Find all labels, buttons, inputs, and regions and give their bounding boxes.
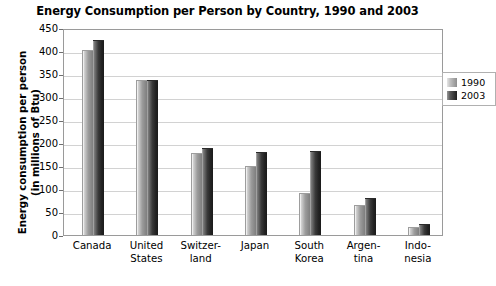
y-axis-tick-mark: [59, 236, 63, 237]
x-axis-tick-label: Switzer-land: [170, 240, 232, 265]
x-axis-tick-labels: CanadaUnitedStatesSwitzer-landJapanSouth…: [63, 240, 443, 280]
bar-group: [299, 30, 321, 235]
plot-area: 1990 2003: [63, 29, 443, 236]
x-axis-tick-label-line-2: land: [170, 253, 232, 266]
y-axis-tick-label: 200: [28, 139, 58, 149]
x-axis-tick-label-line-1: Canada: [61, 240, 123, 253]
y-axis-tick-label: 400: [28, 47, 58, 57]
bar-2003-switzerland: [202, 148, 213, 235]
y-axis-tick-label: 50: [28, 208, 58, 218]
bar-group: [245, 30, 267, 235]
bar-2003-canada: [93, 40, 104, 235]
legend-item: 2003: [447, 89, 492, 102]
x-axis-tick-label-line-2: Korea: [278, 253, 340, 266]
y-axis-tick-label: 450: [28, 24, 58, 34]
y-axis-tick-label: 100: [28, 185, 58, 195]
y-axis-tick-label: 150: [28, 162, 58, 172]
x-axis-tick-label: Argen-tina: [333, 240, 395, 265]
x-axis-tick-label: Japan: [224, 240, 286, 253]
bar-1990-united-states: [136, 80, 147, 235]
x-axis-tick-label: Indo-nesia: [387, 240, 449, 265]
legend-label-1990: 1990: [461, 78, 485, 88]
x-axis-tick-label: UnitedStates: [115, 240, 177, 265]
bar-1990-canada: [82, 50, 93, 235]
bar-group: [354, 30, 376, 235]
x-axis-tick-label-line-2: States: [115, 253, 177, 266]
x-axis-tick-label-line-1: Indo-: [387, 240, 449, 253]
legend-swatch-2003-icon: [447, 91, 457, 100]
bar-group: [82, 30, 104, 235]
x-axis-tick-label-line-1: Switzer-: [170, 240, 232, 253]
bars-layer: [64, 30, 442, 235]
y-axis-tick-label: 250: [28, 116, 58, 126]
x-axis-tick-label-line-1: Japan: [224, 240, 286, 253]
bar-2003-south-korea: [310, 151, 321, 235]
legend-swatch-1990-icon: [447, 78, 457, 87]
bar-group: [191, 30, 213, 235]
legend-label-2003: 2003: [461, 91, 485, 101]
x-axis-tick-label: Canada: [61, 240, 123, 253]
bar-2003-japan: [256, 152, 267, 235]
bar-group: [408, 30, 430, 235]
chart-legend: 1990 2003: [442, 72, 496, 106]
bar-2003-indonesia: [419, 224, 430, 235]
bar-2003-united-states: [147, 80, 158, 235]
y-axis-tick-label: 350: [28, 70, 58, 80]
x-axis-tick-label-line-1: Argen-: [333, 240, 395, 253]
x-axis-tick-label-line-1: South: [278, 240, 340, 253]
y-axis-tick-label: 300: [28, 93, 58, 103]
y-axis-tick-label: 0: [28, 231, 58, 241]
x-axis-tick-label-line-2: tina: [333, 253, 395, 266]
bar-1990-south-korea: [299, 193, 310, 235]
x-axis-tick-label-line-1: United: [115, 240, 177, 253]
x-axis-tick-label: SouthKorea: [278, 240, 340, 265]
bar-1990-argentina: [354, 205, 365, 235]
bar-group: [136, 30, 158, 235]
bar-2003-argentina: [365, 198, 376, 235]
bar-1990-japan: [245, 166, 256, 235]
bar-1990-indonesia: [408, 227, 419, 235]
bar-1990-switzerland: [191, 153, 202, 235]
x-axis-tick-label-line-2: nesia: [387, 253, 449, 266]
legend-item: 1990: [447, 76, 492, 89]
